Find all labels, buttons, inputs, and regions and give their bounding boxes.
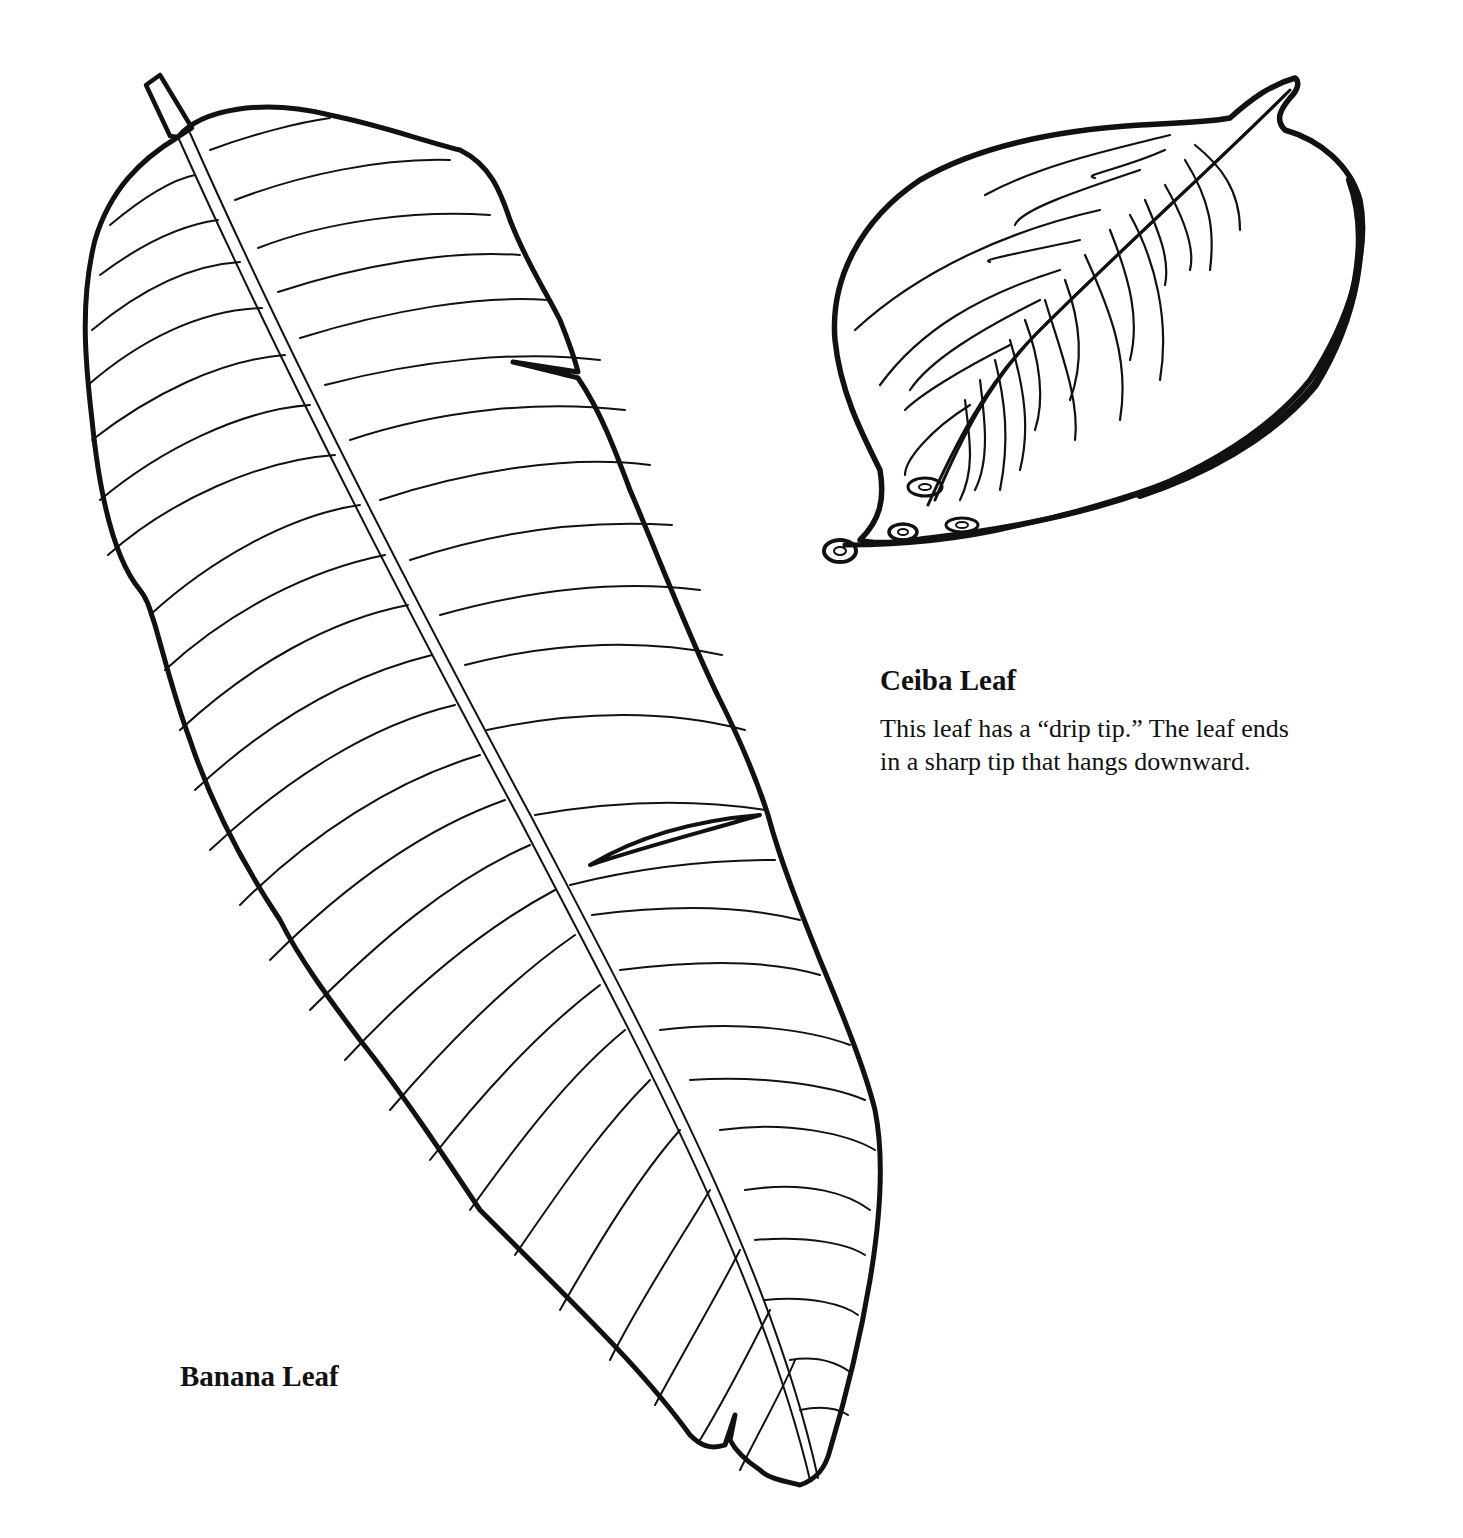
ceiba-description-line-2: in a sharp tip that hangs downward. (880, 745, 1289, 778)
ceiba-description-line-1: This leaf has a “drip tip.” The leaf end… (880, 712, 1289, 745)
banana-leaf-icon (85, 75, 880, 1485)
banana-leaf-title: Banana Leaf (180, 1360, 339, 1393)
ceiba-leaf-title: Ceiba Leaf (880, 664, 1016, 697)
ceiba-leaf-icon (824, 78, 1363, 562)
ceiba-leaf-description: This leaf has a “drip tip.” The leaf end… (880, 712, 1289, 778)
